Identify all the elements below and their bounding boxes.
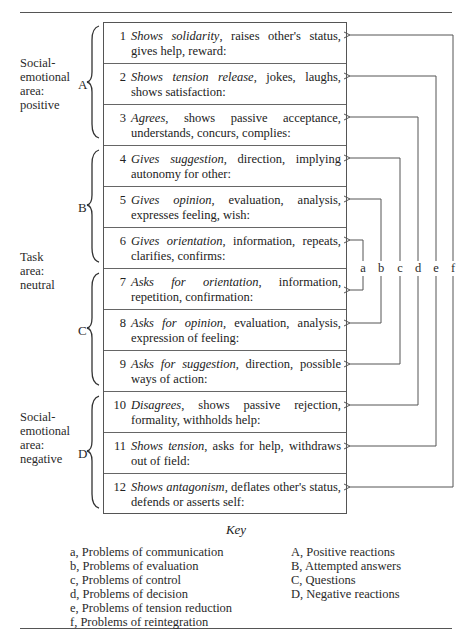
key-item-C: C, Questions [291, 573, 356, 587]
key-item-B: B, Attempted answers [291, 559, 401, 573]
connector-diagram [0, 0, 472, 635]
key-item-f: f, Problems of reintegration [70, 615, 208, 629]
brace-d-icon [87, 396, 99, 508]
connector-label-b: b [375, 261, 387, 276]
key-title: Key [0, 522, 472, 538]
brace-c-icon [87, 273, 99, 385]
key-item-b: b, Problems of evaluation [70, 559, 198, 573]
brace-a-icon [87, 26, 99, 138]
key-item-a: a, Problems of communication [70, 545, 223, 559]
key-item-c: c, Problems of control [70, 573, 181, 587]
connector-label-e: e [430, 261, 442, 276]
connector-label-f: f [447, 261, 459, 276]
key-item-d: d, Problems of decision [70, 587, 188, 601]
connector-label-d: d [412, 261, 424, 276]
key-item-D: D, Negative reactions [291, 587, 400, 601]
connector-label-a: a [357, 261, 369, 276]
key-item-A: A, Positive reactions [291, 545, 395, 559]
brace-b-icon [87, 150, 99, 262]
connector-label-c: c [394, 261, 406, 276]
key-item-e: e, Problems of tension reduction [70, 601, 232, 615]
